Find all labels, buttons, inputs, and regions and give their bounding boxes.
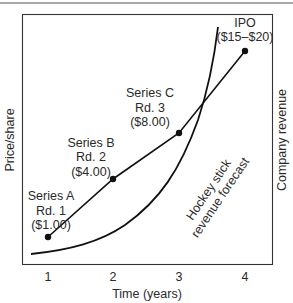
svg-text:Rd. 3: Rd. 3 bbox=[135, 101, 165, 115]
chart: Series A Rd. 1 ($1.00) Series B Rd. 2 ($… bbox=[0, 0, 293, 303]
label-ipo: IPO ($15–$20) bbox=[217, 16, 274, 44]
label-series-a: Series A Rd. 1 ($1.00) bbox=[28, 189, 75, 232]
svg-text:Series A: Series A bbox=[28, 189, 75, 203]
svg-text:2: 2 bbox=[110, 270, 117, 284]
data-point-series-a bbox=[45, 234, 51, 240]
svg-text:($1.00): ($1.00) bbox=[31, 218, 71, 232]
y-axis-label-left: Price/share bbox=[3, 108, 17, 171]
svg-text:3: 3 bbox=[176, 270, 183, 284]
svg-text:Rd. 2: Rd. 2 bbox=[76, 150, 106, 164]
svg-text:($15–$20): ($15–$20) bbox=[217, 30, 274, 44]
label-series-c: Series C Rd. 3 ($8.00) bbox=[126, 86, 174, 129]
label-series-b: Series B Rd. 2 ($4.00) bbox=[67, 136, 114, 179]
svg-text:IPO: IPO bbox=[234, 16, 256, 30]
svg-text:Series B: Series B bbox=[67, 136, 114, 150]
data-point-series-c bbox=[176, 130, 182, 136]
data-point-ipo bbox=[242, 48, 248, 54]
label-curve: Hockey stick revenue forecast bbox=[177, 147, 253, 240]
svg-text:($4.00): ($4.00) bbox=[71, 165, 111, 179]
svg-text:4: 4 bbox=[242, 270, 249, 284]
svg-text:($8.00): ($8.00) bbox=[130, 115, 170, 129]
x-axis-label: Time (years) bbox=[112, 287, 182, 301]
y-axis-label-right: Company revenue bbox=[275, 89, 289, 191]
svg-text:1: 1 bbox=[45, 270, 52, 284]
svg-text:Rd. 1: Rd. 1 bbox=[36, 204, 66, 218]
x-axis-ticks: 1 2 3 4 bbox=[45, 270, 249, 284]
svg-text:Series C: Series C bbox=[126, 86, 174, 100]
